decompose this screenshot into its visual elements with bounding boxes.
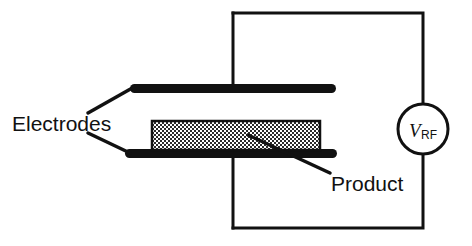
- rf-voltage-source: V RF: [398, 104, 448, 154]
- voltage-source-subscript: RF: [421, 128, 437, 142]
- electrodes-upper-leader: [88, 87, 134, 113]
- electrodes-label: Electrodes: [12, 112, 111, 135]
- diagram-canvas: V RF Electrodes Product: [0, 0, 472, 246]
- product-slab-body: [152, 121, 320, 150]
- product-label: Product: [331, 172, 404, 195]
- product-slab: [152, 121, 320, 150]
- top-electrode: [130, 84, 336, 93]
- rf-heating-diagram: V RF Electrodes Product: [0, 0, 472, 246]
- electrodes-lower-leader: [88, 133, 130, 153]
